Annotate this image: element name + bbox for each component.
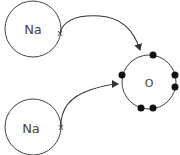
electron-dot	[138, 105, 145, 112]
electron-dot	[119, 72, 126, 79]
oxygen-label: O	[145, 77, 154, 90]
electron-dot	[172, 84, 179, 91]
electron-dot	[150, 105, 157, 112]
electron-dot	[150, 52, 157, 59]
sodium-atom-bottom: Na x	[5, 99, 64, 155]
transfer-arrow-bottom	[61, 84, 118, 127]
sodium-atom-top: Na x	[5, 1, 63, 57]
sodium-label-bottom: Na	[22, 121, 40, 136]
transfer-arrow-top	[60, 16, 140, 50]
oxygen-atom: O	[119, 52, 179, 112]
ionic-bonding-diagram: Na x Na x O	[0, 0, 180, 155]
electron-dot	[172, 72, 179, 79]
sodium-label-top: Na	[24, 22, 42, 37]
